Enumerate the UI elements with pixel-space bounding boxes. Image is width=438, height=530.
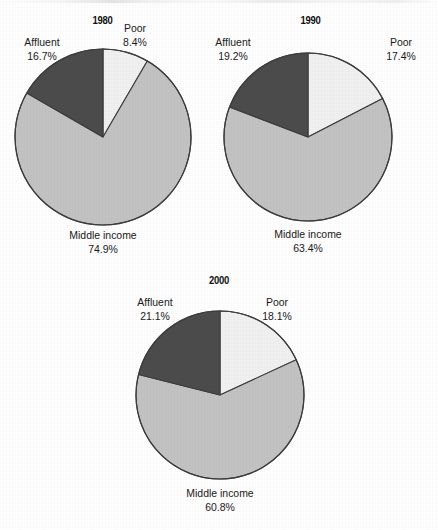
label-poor-1990-value: 17.4%: [373, 50, 430, 64]
pie-chart-1980: 1980 Affluent 16.7% Poor 8.4% Middle inc…: [0, 14, 205, 264]
label-middle-income-2000-value: 60.8%: [139, 501, 301, 515]
pie-chart-1990: 1990 Affluent 19.2% Poor 17.4% Middle in…: [233, 14, 438, 264]
label-affluent-2000-name: Affluent: [119, 296, 191, 310]
label-middle-income-1980-name: Middle income: [18, 229, 187, 243]
label-affluent-1980-name: Affluent: [6, 36, 78, 50]
label-affluent-2000-value: 21.1%: [119, 310, 191, 324]
label-poor-2000: Poor 18.1%: [249, 296, 306, 323]
pie-chart-2000: 2000 Affluent 21.1% Poor 18.1% Middle in…: [116, 274, 322, 526]
label-middle-income-1980: Middle income 74.9%: [18, 229, 187, 256]
label-poor-1990-name: Poor: [373, 36, 430, 50]
label-poor-1980-name: Poor: [107, 22, 164, 36]
label-affluent-1990: Affluent 19.2%: [197, 36, 269, 63]
label-poor-1980-value: 8.4%: [107, 36, 164, 50]
label-middle-income-2000-name: Middle income: [139, 487, 301, 501]
pie-chart-2000-graphic: [135, 310, 305, 480]
pie-chart-1990-title: 1990: [222, 14, 398, 26]
pie-chart-1980-graphic: [14, 48, 192, 226]
label-poor-1990: Poor 17.4%: [373, 36, 430, 63]
label-poor-1980: Poor 8.4%: [107, 22, 164, 49]
label-affluent-2000: Affluent 21.1%: [119, 296, 191, 323]
label-affluent-1990-name: Affluent: [197, 36, 269, 50]
pie-chart-1980-title: 1980: [14, 14, 190, 26]
label-affluent-1980-value: 16.7%: [6, 50, 78, 64]
label-poor-2000-value: 18.1%: [249, 310, 306, 324]
label-middle-income-1990-name: Middle income: [227, 228, 389, 242]
label-affluent-1990-value: 19.2%: [197, 50, 269, 64]
label-middle-income-1990-value: 63.4%: [227, 242, 389, 256]
label-middle-income-1990: Middle income 63.4%: [227, 228, 389, 255]
pie-chart-2000-title: 2000: [130, 274, 307, 286]
scan-artifact-line: [0, 0, 438, 3]
label-middle-income-2000: Middle income 60.8%: [139, 487, 301, 514]
label-poor-2000-name: Poor: [249, 296, 306, 310]
label-affluent-1980: Affluent 16.7%: [6, 36, 78, 63]
pie-chart-1990-graphic: [223, 52, 393, 222]
label-middle-income-1980-value: 74.9%: [18, 243, 187, 257]
